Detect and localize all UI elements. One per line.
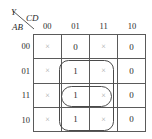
row-header-1: 01	[10, 59, 31, 84]
function-label: Y	[11, 8, 16, 17]
kmap-cell-r0c0: ×	[34, 35, 62, 59]
kmap-cell-r2c2: ×	[90, 84, 118, 108]
column-header-2: 11	[90, 20, 118, 33]
kmap-cell-r1c3: 0	[118, 59, 146, 83]
row-header-0: 00	[10, 34, 31, 59]
kmap-cell-r1c0: ×	[34, 59, 62, 83]
column-header-0: 00	[33, 20, 61, 33]
kmap-cell-r3c2: ×	[90, 108, 118, 132]
kmap-cell-r2c3: 0	[118, 84, 146, 108]
kmap-cell-r3c0: ×	[34, 108, 62, 132]
row-header-3: 10	[10, 108, 31, 133]
kmap-cell-r0c3: 0	[118, 35, 146, 59]
kmap-cell-r2c0: ×	[34, 84, 62, 108]
kmap-cell-r0c1: 0	[62, 35, 90, 59]
kmap-cell-r1c1: 1	[62, 59, 90, 83]
column-header-1: 01	[61, 20, 89, 33]
column-header-row: 00 01 11 10	[33, 20, 146, 33]
karnaugh-map: Y CD AB 00 01 11 10 00 01 11 10 × 0 × 0 …	[0, 0, 152, 139]
row-header-column: 00 01 11 10	[10, 34, 31, 132]
kmap-cell-r3c3: 0	[118, 108, 146, 132]
kmap-cell-r1c2: ×	[90, 59, 118, 83]
kmap-grid: × 0 × 0 × 1 × 0 × 1 × 0 × 1 × 0	[33, 34, 146, 132]
kmap-cell-r0c2: ×	[90, 35, 118, 59]
row-variable-label: AB	[12, 23, 23, 32]
kmap-cell-r2c1: 1	[62, 84, 90, 108]
column-header-3: 10	[118, 20, 146, 33]
row-header-2: 11	[10, 83, 31, 108]
kmap-cell-r3c1: 1	[62, 108, 90, 132]
